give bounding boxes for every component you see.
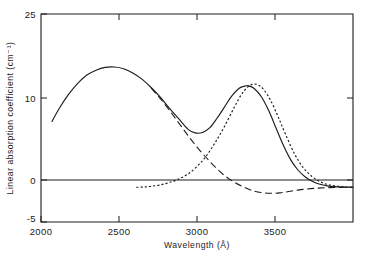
x-tick-label-3000: 3000 [186, 226, 209, 237]
total-absorption-solid-curve [52, 67, 353, 187]
y-axis-title: Linear absorption coefficient (cm⁻¹) [5, 42, 15, 195]
y-tick-label-25: 25 [25, 9, 36, 20]
figure-container: 25 10 0 -5 2000 2500 3000 3500 Wavelengt… [0, 0, 367, 253]
y-axis-ticks [41, 14, 353, 222]
x-tick-label-3500: 3500 [264, 226, 287, 237]
y-tick-label-minus5: -5 [27, 213, 36, 224]
plot-frame [41, 14, 353, 222]
x-axis-title: Wavelength (Å) [164, 240, 230, 250]
x-tick-label-2000: 2000 [30, 226, 53, 237]
y-tick-label-10: 10 [25, 93, 36, 104]
y-tick-label-0: 0 [30, 175, 36, 186]
component-2-dotted-curve [136, 84, 353, 187]
absorption-spectrum-chart: 25 10 0 -5 2000 2500 3000 3500 Wavelengt… [0, 0, 367, 253]
x-tick-label-2500: 2500 [108, 226, 131, 237]
x-axis-ticks [41, 14, 275, 222]
